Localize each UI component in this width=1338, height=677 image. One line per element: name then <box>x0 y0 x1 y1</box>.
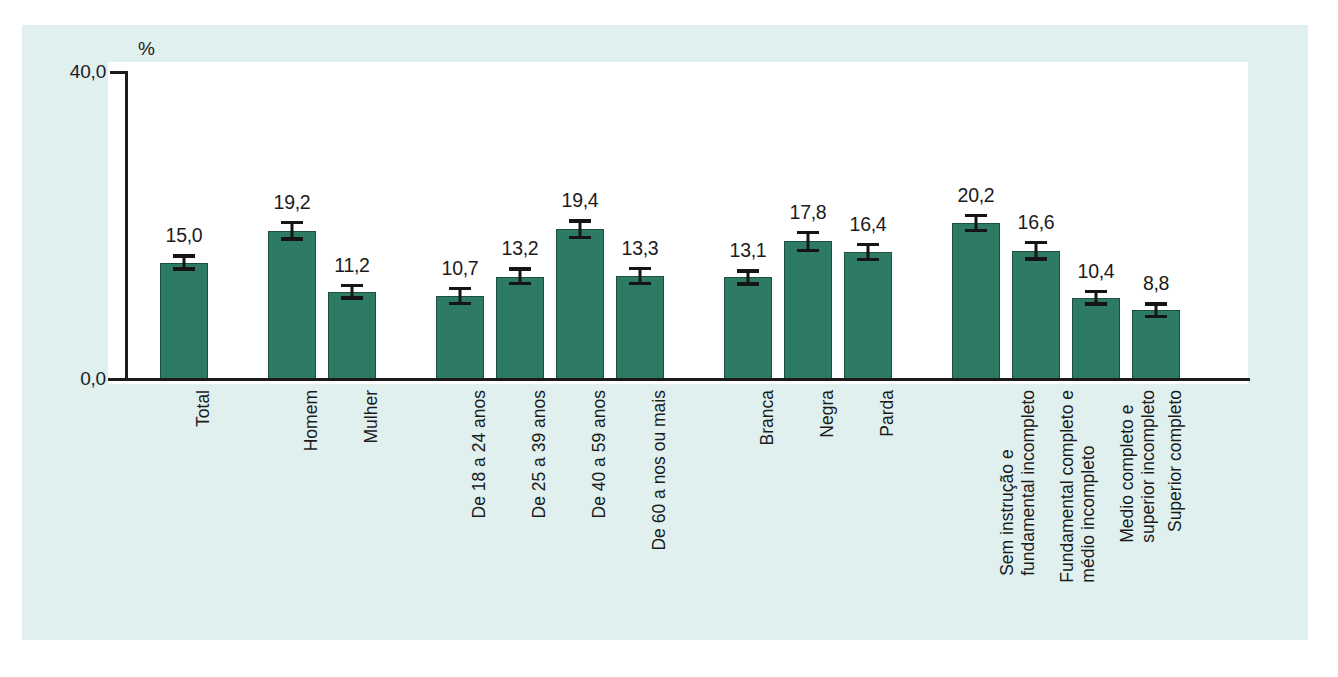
category-label-line: Sem instrução e <box>997 390 1018 576</box>
error-bar-cap-upper <box>629 267 651 271</box>
error-bar-cap-lower <box>449 302 471 306</box>
error-bar-cap-lower <box>737 282 759 286</box>
bar-value-label: 15,0 <box>134 224 234 247</box>
error-bar-cap-lower <box>965 229 987 233</box>
category-label: Branca <box>757 390 778 445</box>
bar-value-label: 8,8 <box>1106 272 1206 295</box>
error-bar <box>509 267 531 285</box>
bar: 13,2 <box>496 277 544 378</box>
error-bar-cap-lower <box>1145 315 1167 319</box>
error-bar <box>449 287 471 305</box>
error-bar-cap-lower <box>857 258 879 262</box>
category-label-line: médio incompleto <box>1078 390 1099 583</box>
y-axis-unit-label: % <box>138 38 155 60</box>
bar-rect <box>496 277 544 378</box>
error-bar <box>1025 241 1047 261</box>
bar-rect <box>160 263 208 378</box>
error-bar-cap-upper <box>797 231 819 235</box>
category-label: Fundamental completo emédio incompleto <box>1057 390 1098 583</box>
category-label: De 40 a 59 anos <box>589 390 610 518</box>
error-bar-cap-upper <box>965 214 987 218</box>
bar-value-label: 20,2 <box>926 184 1026 207</box>
error-bar-cap-upper <box>341 284 363 288</box>
error-bar <box>857 243 879 261</box>
bar-rect <box>328 292 376 378</box>
y-axis-line <box>125 71 128 379</box>
category-label: De 60 a nos ou mais <box>649 390 670 551</box>
error-bar <box>1085 290 1107 306</box>
bar: 13,1 <box>724 277 772 378</box>
error-bar <box>797 231 819 252</box>
bar-value-label: 13,1 <box>698 239 798 262</box>
bar-value-label: 19,2 <box>242 191 342 214</box>
bar: 8,8 <box>1132 310 1180 378</box>
bar-value-label: 13,3 <box>590 237 690 260</box>
category-label-line: fundamental incompleto <box>1018 390 1039 576</box>
bar: 20,2 <box>952 223 1000 378</box>
bar-rect <box>616 276 664 378</box>
chart-figure: 40,0 0,0 % 15,019,211,210,713,219,413,31… <box>0 0 1338 677</box>
bar-value-label: 13,2 <box>470 237 570 260</box>
bar: 13,3 <box>616 276 664 378</box>
category-label: De 18 a 24 anos <box>469 390 490 518</box>
error-bar-cap-upper <box>569 219 591 223</box>
bottom-caption <box>0 662 1338 677</box>
category-label: Sem instrução efundamental incompleto <box>997 390 1038 576</box>
error-bar-cap-upper <box>1085 290 1107 294</box>
bar: 17,8 <box>784 241 832 378</box>
bar-value-label: 11,2 <box>302 254 402 277</box>
category-label: De 25 a 39 anos <box>529 390 550 518</box>
error-bar-cap-lower <box>569 236 591 240</box>
bar-value-label: 16,4 <box>818 213 918 236</box>
bar: 10,7 <box>436 296 484 378</box>
y-axis-tick-top <box>110 71 126 74</box>
bar-value-label: 19,4 <box>530 189 630 212</box>
bar: 16,4 <box>844 252 892 378</box>
y-axis-tick-bottom <box>110 378 126 381</box>
error-bar <box>341 284 363 300</box>
error-bar-cap-lower <box>1025 257 1047 261</box>
category-label: Homem <box>301 390 322 451</box>
error-bar-cap-lower <box>1085 302 1107 306</box>
category-label-line: Fundamental completo e <box>1057 390 1078 583</box>
error-bar-cap-upper <box>173 254 195 258</box>
category-label: Mulher <box>361 390 382 444</box>
category-label: Total <box>193 390 214 427</box>
error-bar-cap-lower <box>797 249 819 253</box>
error-bar-cap-lower <box>629 282 651 286</box>
x-axis-line <box>108 378 1250 381</box>
error-bar <box>281 221 303 241</box>
bar-rect <box>844 252 892 378</box>
bar-rect <box>1072 298 1120 378</box>
y-axis-label-max: 40,0 <box>34 61 106 83</box>
bar-rect <box>784 241 832 378</box>
error-bar-cap-lower <box>281 237 303 241</box>
category-label-line: Medio completo e <box>1117 390 1138 543</box>
category-label: Medio completo esuperior incompleto <box>1117 390 1158 543</box>
error-bar-cap-upper <box>857 243 879 247</box>
bar: 15,0 <box>160 263 208 378</box>
error-bar-cap-lower <box>509 282 531 286</box>
error-bar <box>629 267 651 285</box>
bar-rect <box>724 277 772 378</box>
bar-rect <box>1132 310 1180 378</box>
error-bar <box>965 214 987 232</box>
bar: 11,2 <box>328 292 376 378</box>
error-bar <box>569 219 591 239</box>
bar: 10,4 <box>1072 298 1120 378</box>
error-bar-cap-upper <box>449 287 471 291</box>
error-bar-cap-lower <box>341 296 363 300</box>
error-bar-cap-upper <box>281 221 303 225</box>
category-label: Negra <box>817 390 838 438</box>
error-bar <box>737 269 759 286</box>
error-bar-cap-upper <box>737 269 759 273</box>
bar-rect <box>952 223 1000 378</box>
error-bar-cap-lower <box>173 267 195 271</box>
error-bar <box>1145 302 1167 318</box>
error-bar-cap-upper <box>509 267 531 271</box>
y-axis-label-min: 0,0 <box>34 368 106 390</box>
error-bar-cap-upper <box>1025 241 1047 245</box>
category-label-line: superior incompleto <box>1138 390 1159 543</box>
error-bar <box>173 254 195 270</box>
bar-rect <box>436 296 484 378</box>
